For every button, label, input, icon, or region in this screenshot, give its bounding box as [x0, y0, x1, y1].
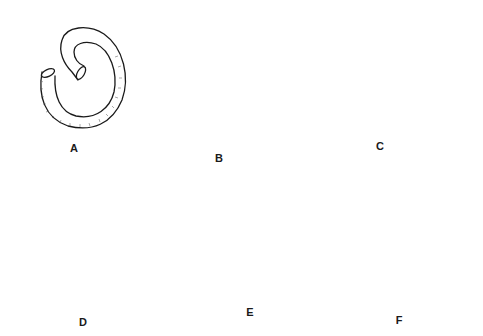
panel-label-f: F — [396, 315, 403, 326]
panel-label-e: E — [246, 307, 253, 318]
panel-label-c: C — [376, 141, 384, 152]
panel-label-d: D — [79, 317, 87, 328]
panel-label-b: B — [215, 153, 223, 164]
surgical-diagram: A B C D E F — [0, 0, 483, 336]
panel-label-a: A — [70, 143, 78, 154]
panel-a-drawing — [40, 28, 125, 128]
